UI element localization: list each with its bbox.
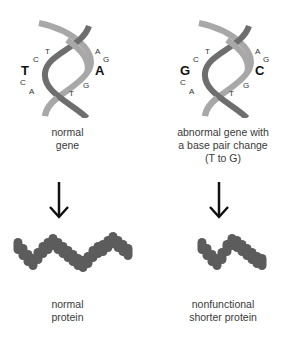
base-highlight-left: G: [180, 63, 190, 78]
shorter-protein-chain: [195, 230, 270, 278]
amino-acid-bead: [258, 254, 267, 270]
normal-protein-caption: normal protein: [0, 298, 140, 324]
caption-line: (T to G): [150, 152, 291, 165]
normal-gene-caption: normal gene: [0, 126, 140, 152]
base-highlight-right: C: [255, 63, 265, 78]
base-c-bottom: C: [20, 78, 26, 87]
amino-acid-bead: [124, 244, 133, 260]
caption-line: gene: [0, 139, 140, 152]
caption-line: shorter protein: [150, 311, 291, 324]
normal-dna-helix: T C T C A A G A G T: [17, 18, 117, 118]
caption-line: protein: [0, 311, 140, 324]
base-c-top: C: [33, 55, 39, 64]
caption-line: a base pair change: [150, 139, 291, 152]
caption-line: normal: [0, 298, 140, 311]
caption-line: nonfunctional: [150, 298, 291, 311]
base-a-top: A: [255, 47, 261, 56]
base-a-bottom: A: [189, 87, 195, 96]
abnormal-protein-caption: nonfunctional shorter protein: [150, 298, 291, 324]
down-arrow-icon: [207, 180, 231, 220]
abnormal-dna-helix: T C G C A A G C G T: [177, 18, 277, 118]
down-arrow-icon: [47, 180, 71, 220]
abnormal-gene-caption: abnormal gene with a base pair change (T…: [150, 126, 291, 165]
normal-panel: T C T C A A G A G T normal gene normal p…: [0, 0, 145, 339]
base-t-top: T: [205, 47, 210, 56]
base-a-bottom: A: [29, 87, 35, 96]
base-t-bottom: T: [229, 89, 234, 98]
base-c-bottom: C: [180, 78, 186, 87]
caption-line: abnormal gene with: [150, 126, 291, 139]
base-t-bottom: T: [69, 89, 74, 98]
base-highlight-right: A: [95, 63, 105, 78]
base-a-top: A: [95, 47, 101, 56]
normal-protein-chain: [10, 230, 135, 278]
base-highlight-left: T: [21, 63, 29, 78]
base-c-top: C: [193, 55, 199, 64]
caption-line: normal: [0, 126, 140, 139]
base-t-top: T: [45, 47, 50, 56]
base-g-bottom: G: [243, 81, 249, 90]
base-g-bottom: G: [83, 81, 89, 90]
abnormal-panel: T C G C A A G C G T abnormal gene with a…: [145, 0, 291, 339]
